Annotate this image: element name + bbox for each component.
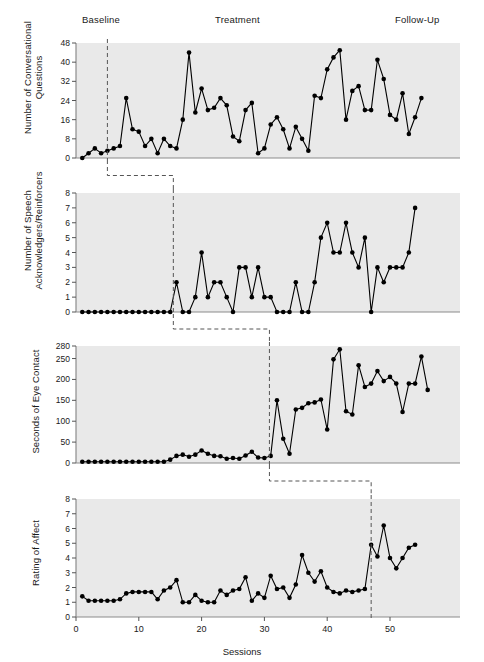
data-point xyxy=(400,556,405,561)
data-point xyxy=(300,553,305,558)
data-point xyxy=(143,590,148,595)
data-point xyxy=(256,591,261,596)
data-point xyxy=(105,598,110,603)
data-point xyxy=(111,598,116,603)
data-point xyxy=(180,600,185,605)
data-point xyxy=(130,590,135,595)
x-tick-label: 0 xyxy=(64,624,88,634)
data-point xyxy=(287,596,292,601)
data-point xyxy=(99,598,104,603)
y-tick-label: 7 xyxy=(42,509,70,519)
y-tick-label: 4 xyxy=(42,553,70,563)
y-tick-label: 0 xyxy=(42,612,70,622)
data-point xyxy=(268,573,273,578)
x-tick-label: 40 xyxy=(315,624,339,634)
data-point xyxy=(350,590,355,595)
data-point xyxy=(331,590,336,595)
data-point xyxy=(237,587,242,592)
y-tick-label: 2 xyxy=(42,583,70,593)
data-point xyxy=(168,585,173,590)
y-tick-label: 1 xyxy=(42,597,70,607)
data-point xyxy=(275,587,280,592)
data-point xyxy=(174,578,179,583)
data-point xyxy=(388,556,393,561)
data-point xyxy=(212,600,217,605)
x-axis-label: Sessions xyxy=(0,646,484,657)
x-tick-label: 30 xyxy=(252,624,276,634)
plot-svg xyxy=(0,0,484,662)
data-point xyxy=(319,569,324,574)
y-tick-label: 5 xyxy=(42,538,70,548)
data-point xyxy=(337,591,342,596)
data-point xyxy=(281,585,286,590)
data-point xyxy=(80,594,85,599)
data-point xyxy=(325,585,330,590)
data-point xyxy=(262,596,267,601)
data-point xyxy=(187,600,192,605)
data-point xyxy=(243,575,248,580)
y-tick-label: 3 xyxy=(42,568,70,578)
data-point xyxy=(86,598,91,603)
data-point xyxy=(218,588,223,593)
data-point xyxy=(344,588,349,593)
data-point xyxy=(375,554,380,559)
x-tick-label: 50 xyxy=(378,624,402,634)
x-tick-label: 10 xyxy=(127,624,151,634)
data-point xyxy=(118,597,123,602)
figure-root: Baseline Treatment Follow-Up 08162432404… xyxy=(0,0,484,662)
y-axis-label: Rating of Affect xyxy=(30,494,41,612)
data-point xyxy=(306,570,311,575)
data-point xyxy=(224,593,229,598)
data-point xyxy=(231,588,236,593)
data-point xyxy=(193,593,198,598)
y-tick-label: 8 xyxy=(42,494,70,504)
data-point xyxy=(250,598,255,603)
x-tick-label: 20 xyxy=(190,624,214,634)
data-point xyxy=(407,545,412,550)
data-point xyxy=(294,582,299,587)
data-point xyxy=(124,591,129,596)
data-point xyxy=(137,590,142,595)
data-point xyxy=(413,542,418,547)
data-point xyxy=(312,579,317,584)
data-point xyxy=(206,600,211,605)
y-tick-label: 6 xyxy=(42,524,70,534)
data-point xyxy=(93,598,98,603)
data-point xyxy=(381,523,386,528)
data-point xyxy=(363,587,368,592)
data-point xyxy=(199,598,204,603)
data-point xyxy=(155,597,160,602)
data-point xyxy=(356,588,361,593)
data-point xyxy=(162,588,167,593)
data-point xyxy=(149,590,154,595)
data-point xyxy=(394,566,399,571)
